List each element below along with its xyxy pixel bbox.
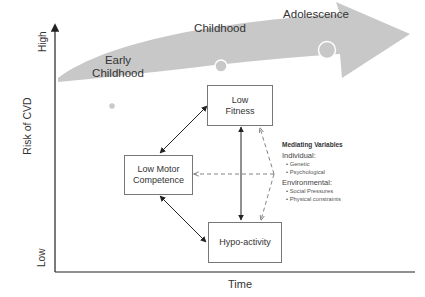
category-environmental: Environmental: xyxy=(282,178,343,188)
stage-early-childhood-label: Early Childhood xyxy=(78,54,158,80)
stage-early-childhood-line1: Early xyxy=(78,54,158,67)
stage-adolescence-label: Adolescence xyxy=(276,8,356,21)
y-axis-title: Risk of CVD xyxy=(21,91,33,161)
x-axis-title: Time xyxy=(215,278,265,291)
category-individual: Individual: xyxy=(282,151,343,161)
list-item: Social Pressures xyxy=(286,188,343,196)
low-fitness-box: Low Fitness xyxy=(207,85,273,126)
y-axis-low-label: Low xyxy=(36,246,48,270)
environmental-list: Social Pressures Physical constraints xyxy=(282,188,343,203)
individual-list: Genetic Psychological xyxy=(282,161,343,176)
list-item: Genetic xyxy=(286,161,343,169)
early-childhood-marker xyxy=(109,103,116,110)
dashed-arrow-to-fitness xyxy=(260,128,274,174)
low-motor-competence-line2: Competence xyxy=(133,175,184,186)
y-axis-high-label: High xyxy=(37,27,49,57)
low-fitness-line1: Low xyxy=(225,95,254,106)
dashed-arrow-to-hypo xyxy=(261,174,274,220)
childhood-marker xyxy=(215,60,227,72)
stage-childhood-label: Childhood xyxy=(185,22,255,35)
low-motor-competence-box: Low Motor Competence xyxy=(124,155,193,195)
arrow-fitness-motor xyxy=(160,106,207,153)
mediating-variables-panel: Mediating Variables Individual: Genetic … xyxy=(282,141,343,205)
stage-early-childhood-line2: Childhood xyxy=(78,67,158,80)
low-fitness-line2: Fitness xyxy=(225,106,254,117)
list-item: Psychological xyxy=(286,169,343,177)
hypo-activity-label: Hypo-activity xyxy=(219,237,271,248)
hypo-activity-box: Hypo-activity xyxy=(208,222,282,263)
list-item: Physical constraints xyxy=(286,196,343,204)
arrow-motor-hypo xyxy=(160,196,206,242)
mediating-variables-title: Mediating Variables xyxy=(282,141,343,149)
adolescence-marker xyxy=(319,42,336,59)
low-motor-competence-line1: Low Motor xyxy=(133,164,184,175)
